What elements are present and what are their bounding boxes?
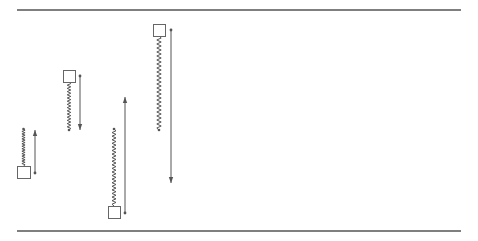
- mass-spring-system-4: [154, 25, 174, 184]
- spring-coil: [112, 129, 116, 206]
- spring-end-dot: [113, 128, 116, 131]
- spring-coil: [22, 129, 25, 166]
- spring-end-dot: [22, 128, 25, 131]
- spring-end-dot: [68, 129, 71, 132]
- arrow-origin-dot: [34, 172, 37, 175]
- mass-spring-system-2: [64, 71, 83, 132]
- mass-spring-diagram: [0, 0, 478, 241]
- spring-coil: [157, 36, 161, 130]
- mass-spring-system-3: [109, 97, 128, 219]
- diagram-canvas: [0, 0, 478, 241]
- arrow-origin-dot: [124, 212, 127, 215]
- arrow-origin-dot: [79, 75, 82, 78]
- mass-spring-systems: [18, 25, 174, 219]
- arrow-up-icon: [33, 130, 37, 136]
- mass-spring-system-1: [18, 128, 38, 179]
- arrow-down-icon: [78, 124, 82, 130]
- spring-end-dot: [158, 129, 161, 132]
- mass-box: [154, 25, 166, 37]
- arrow-up-icon: [123, 97, 127, 103]
- arrow-origin-dot: [170, 29, 173, 32]
- mass-box: [109, 207, 121, 219]
- mass-box: [64, 71, 76, 83]
- boundary-lines: [17, 10, 461, 231]
- arrow-down-icon: [169, 177, 173, 183]
- mass-box: [18, 167, 31, 179]
- spring-coil: [67, 82, 71, 130]
